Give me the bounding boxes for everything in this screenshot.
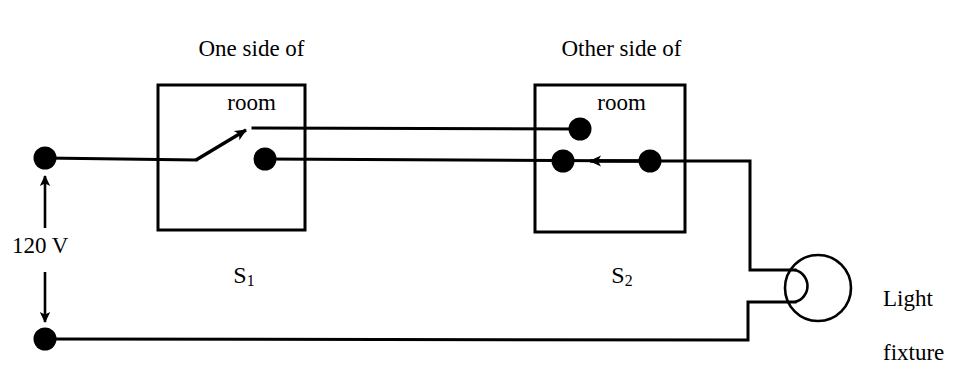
circuit-diagram: One side of room Other side of room S1 S…	[0, 0, 965, 369]
label-light-fixture: Light fixture	[860, 258, 965, 369]
label-other-side-of-room: Other side of room	[500, 8, 720, 144]
wire-s2-to-fixture	[650, 161, 795, 270]
wire-fixture-return	[45, 302, 795, 340]
label-switch-s2: S2	[560, 233, 660, 320]
light-fixture-outer-circle	[785, 255, 851, 321]
wire-source-to-s1	[45, 158, 196, 160]
label-other-side-line1: Other side of	[561, 36, 681, 61]
label-light-line1: Light	[883, 286, 933, 311]
label-s1-letter: S	[233, 262, 246, 288]
label-one-side-of-room: One side of room	[140, 8, 340, 144]
label-s2-letter: S	[611, 262, 624, 288]
label-switch-s1: S1	[182, 233, 282, 320]
light-fixture-inner-loop	[795, 270, 807, 302]
terminal-dot-source-top	[34, 147, 57, 170]
label-other-side-line2: room	[597, 90, 646, 115]
label-one-side-line1: One side of	[198, 36, 304, 61]
contact-dot-s1-lower	[254, 148, 277, 171]
label-one-side-line2: room	[227, 90, 276, 115]
contact-dot-s2-lower	[552, 150, 575, 173]
label-s2-subscript: 2	[625, 273, 633, 290]
terminal-dot-source-bottom	[34, 328, 57, 351]
label-source-voltage: 120 V	[12, 232, 122, 259]
label-light-line2: fixture	[883, 340, 944, 365]
contact-dot-s2-common	[639, 150, 662, 173]
label-s1-subscript: 1	[247, 273, 255, 290]
